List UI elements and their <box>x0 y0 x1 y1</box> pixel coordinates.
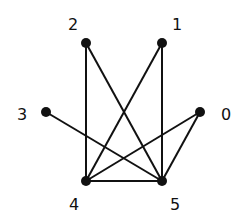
node-label-3: 3 <box>17 105 27 124</box>
node-5 <box>157 176 167 186</box>
node-label-2: 2 <box>68 15 78 34</box>
node-label-0: 0 <box>221 105 231 124</box>
graph-diagram: 012345 <box>0 0 247 221</box>
node-1 <box>157 38 167 48</box>
node-2 <box>81 38 91 48</box>
node-label-5: 5 <box>170 195 180 214</box>
node-3 <box>41 107 51 117</box>
node-label-4: 4 <box>69 195 79 214</box>
edges-layer <box>46 43 200 181</box>
node-4 <box>81 176 91 186</box>
node-0 <box>195 107 205 117</box>
node-label-1: 1 <box>172 15 182 34</box>
